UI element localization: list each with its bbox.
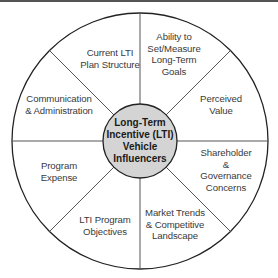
- center-title: Long-Term Incentive (LTI) Vehicle Influe…: [105, 117, 175, 165]
- segment-shareholder-governance-concerns: Shareholder & Governance Concerns: [200, 147, 252, 193]
- segment-ability-to-set-measure-goals: Ability to Set/Measure Long-Term Goals: [147, 31, 200, 77]
- segment-lti-program-objectives: LTI Program Objectives: [79, 214, 131, 237]
- segment-communication-administration: Communication & Administration: [25, 93, 93, 116]
- segment-current-lti-plan-structure: Current LTI Plan Structure: [80, 47, 139, 70]
- segment-market-trends-competitive-landscape: Market Trends & Competitive Landscape: [145, 207, 205, 242]
- segment-program-expense: Program Expense: [41, 160, 78, 183]
- segment-perceived-value: Perceived Value: [200, 93, 242, 116]
